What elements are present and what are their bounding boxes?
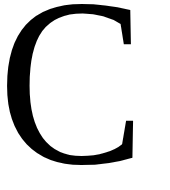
letter-canvas: C bbox=[0, 0, 170, 190]
letter-c: C bbox=[0, 0, 145, 190]
